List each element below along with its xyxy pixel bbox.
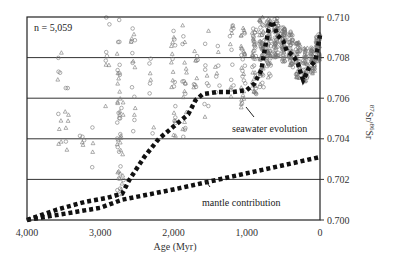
scatter-point-triangle bbox=[81, 143, 85, 147]
scatter-point-triangle bbox=[59, 119, 63, 123]
scatter-point-circle bbox=[64, 140, 68, 144]
x-tick-label: 0 bbox=[318, 227, 323, 238]
y-tick-label: 0.704 bbox=[327, 133, 350, 144]
scatter-point-triangle bbox=[239, 105, 243, 109]
scatter-point-triangle bbox=[183, 40, 187, 44]
scatter-point-triangle bbox=[59, 140, 63, 144]
scatter-point-triangle bbox=[66, 119, 70, 123]
scatter-point-circle bbox=[229, 78, 233, 82]
scatter-point-triangle bbox=[117, 77, 121, 81]
scatter-point-circle bbox=[174, 104, 178, 108]
scatter-point-circle bbox=[203, 102, 207, 106]
scatter-point-circle bbox=[243, 64, 247, 68]
scatter-point-circle bbox=[181, 42, 185, 46]
scatter-point-circle bbox=[104, 59, 108, 63]
scatter-point-circle bbox=[151, 132, 155, 136]
scatter-point-circle bbox=[232, 84, 236, 88]
scatter-point-triangle bbox=[195, 76, 199, 80]
scatter-point-triangle bbox=[229, 95, 233, 99]
scatter-point-triangle bbox=[241, 93, 245, 97]
scatter-point-triangle bbox=[193, 49, 197, 53]
scatter-point-circle bbox=[131, 129, 135, 133]
y-tick-label: 0.702 bbox=[327, 174, 350, 185]
scatter-point-triangle bbox=[132, 113, 136, 117]
scatter-point-triangle bbox=[216, 50, 220, 54]
scatter-point-circle bbox=[90, 165, 94, 169]
scatter-point-circle bbox=[216, 64, 220, 68]
scatter-point-triangle bbox=[170, 52, 174, 56]
scatter-point-triangle bbox=[181, 23, 185, 27]
scatter-point-triangle bbox=[184, 67, 188, 71]
scatter-point-triangle bbox=[115, 52, 119, 56]
scatter-point-triangle bbox=[171, 40, 175, 44]
x-tick-label: 1,000 bbox=[236, 227, 259, 238]
scatter-point-triangle bbox=[132, 32, 136, 36]
scatter-point-triangle bbox=[57, 127, 61, 131]
scatter-point-circle bbox=[204, 64, 208, 68]
scatter-point-circle bbox=[173, 38, 177, 42]
scatter-point-triangle bbox=[148, 71, 152, 75]
scatter-point-triangle bbox=[56, 78, 60, 82]
x-tick-label: 3,000 bbox=[89, 227, 112, 238]
scatter-point-circle bbox=[231, 63, 235, 67]
scatter-point-triangle bbox=[183, 61, 187, 65]
scatter-point-triangle bbox=[57, 142, 61, 146]
scatter-point-circle bbox=[250, 87, 254, 91]
y-tick-label: 0.710 bbox=[327, 12, 350, 23]
scatter-point-triangle bbox=[64, 126, 68, 130]
scatter-point-circle bbox=[130, 85, 134, 89]
mantle-contribution-line bbox=[27, 157, 320, 220]
x-axis-ticks: 4,0003,0002,0001,0000 bbox=[16, 227, 323, 238]
scatter-point-circle bbox=[172, 29, 176, 33]
scatter-point-circle bbox=[148, 82, 152, 86]
scatter-point-triangle bbox=[185, 71, 189, 75]
scatter-point-triangle bbox=[60, 51, 64, 55]
scatter-point-circle bbox=[230, 48, 234, 52]
scatter-point-triangle bbox=[116, 82, 120, 86]
scatter-point-triangle bbox=[91, 150, 95, 154]
scatter-point-triangle bbox=[152, 125, 156, 129]
scatter-point-circle bbox=[108, 23, 112, 27]
scatter-point-triangle bbox=[118, 90, 122, 94]
scatter-point-triangle bbox=[121, 152, 125, 156]
x-tick-label: 4,000 bbox=[16, 227, 39, 238]
scatter-point-circle bbox=[104, 50, 108, 54]
scatter-point-circle bbox=[288, 46, 292, 50]
scatter-point-triangle bbox=[91, 141, 95, 145]
scatter-point-circle bbox=[122, 178, 126, 182]
sample-count-label: n = 5,059 bbox=[34, 22, 72, 33]
scatter-point-circle bbox=[118, 63, 122, 67]
strontium-isotope-chart: 0.7000.7020.7040.7060.7080.710 4,0003,00… bbox=[0, 0, 393, 263]
y-axis-title-base2: Sr bbox=[364, 130, 375, 140]
seawater-annotation-pointer bbox=[246, 107, 254, 117]
scatter-point-circle bbox=[117, 18, 121, 22]
scatter-point-circle bbox=[57, 112, 61, 116]
scatter-point-circle bbox=[228, 34, 232, 38]
scatter-point-circle bbox=[260, 23, 264, 27]
x-tick-label: 2,000 bbox=[162, 227, 185, 238]
scatter-point-triangle bbox=[203, 115, 207, 119]
scatter-point-circle bbox=[203, 68, 207, 72]
scatter-point-circle bbox=[115, 121, 119, 125]
scatter-point-triangle bbox=[215, 71, 219, 75]
scatter-point-circle bbox=[182, 35, 186, 39]
scatter-point-circle bbox=[119, 165, 123, 169]
scatter-point-triangle bbox=[63, 110, 67, 114]
scatter-point-circle bbox=[131, 27, 135, 31]
scatter-point-triangle bbox=[171, 70, 175, 74]
scatter-point-triangle bbox=[121, 113, 125, 117]
scatter-point-triangle bbox=[65, 148, 69, 152]
scatter-point-triangle bbox=[169, 44, 173, 48]
scatter-point-circle bbox=[181, 135, 185, 139]
scatter-point-circle bbox=[120, 106, 124, 110]
y-tick-label: 0.700 bbox=[327, 215, 350, 226]
y-axis-title: 87Sr/86Sr bbox=[364, 105, 376, 140]
scatter-point-triangle bbox=[169, 60, 173, 64]
scatter-point-circle bbox=[91, 126, 95, 130]
scatter-point-circle bbox=[261, 24, 265, 28]
scatter-point-circle bbox=[218, 84, 222, 88]
scatter-point-triangle bbox=[172, 35, 176, 39]
y-tick-label: 0.708 bbox=[327, 52, 350, 63]
scatter-point-triangle bbox=[133, 65, 137, 69]
scatter-point-triangle bbox=[133, 106, 137, 110]
